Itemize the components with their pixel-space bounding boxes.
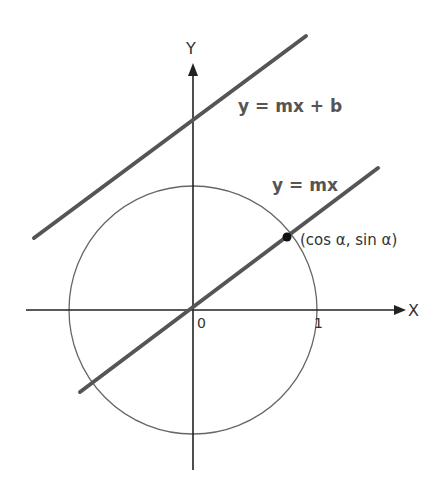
unit-tick-label: 1 (314, 315, 323, 331)
x-axis-arrow-icon (394, 305, 406, 315)
y-axis-arrow-icon (188, 63, 198, 76)
x-axis-label: X (408, 301, 419, 320)
point-marker (283, 233, 292, 242)
y-axis-label: Y (185, 39, 196, 58)
equation-y-mx-plus-b: y = mx + b (238, 96, 342, 116)
unit-circle-diagram: Y X 0 1 y = mx y = mx + b (cos α, sin α) (0, 0, 439, 487)
equation-y-mx: y = mx (272, 175, 338, 195)
line-y-mx (80, 168, 378, 392)
point-label: (cos α, sin α) (300, 231, 397, 249)
origin-label: 0 (197, 315, 206, 331)
line-y-mx-plus-b (34, 36, 306, 238)
